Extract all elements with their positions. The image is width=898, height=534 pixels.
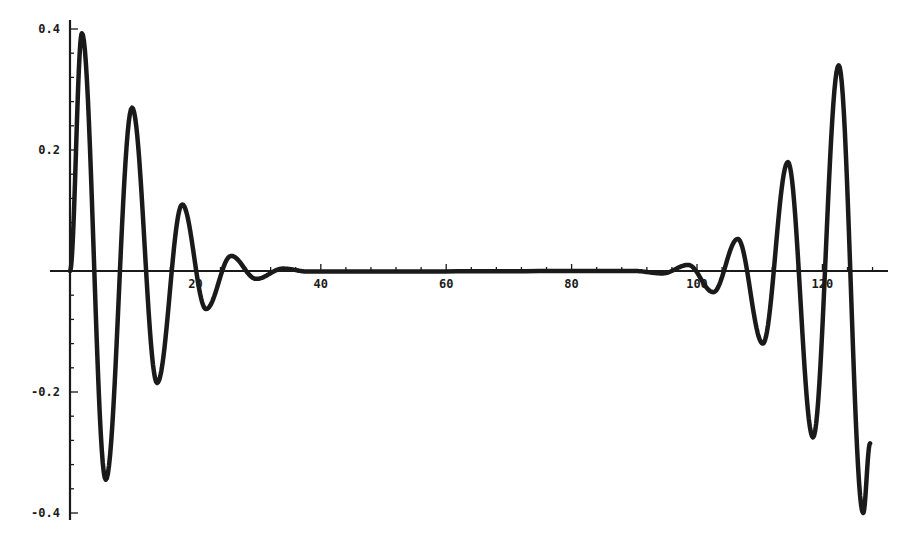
- data-series-line: [70, 33, 870, 513]
- x-axis: 20406080100120: [50, 264, 888, 291]
- y-tick-label: -0.4: [31, 506, 60, 520]
- y-tick-label: -0.2: [31, 385, 60, 399]
- x-tick-label: 40: [314, 277, 328, 291]
- line-chart: 20406080100120 0.40.2-0.2-0.4: [0, 0, 898, 534]
- x-tick-label: 80: [564, 277, 578, 291]
- y-tick-label: 0.2: [38, 143, 60, 157]
- x-tick-label: 60: [439, 277, 453, 291]
- y-tick-label: 0.4: [38, 22, 60, 36]
